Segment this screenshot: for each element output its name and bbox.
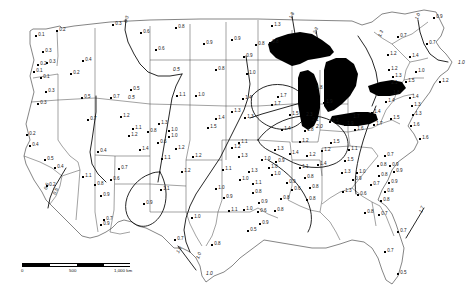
data-point-marker: [223, 197, 226, 200]
data-point-marker: [397, 36, 400, 39]
data-point-marker: [100, 224, 103, 227]
contour-0-5-west: [90, 96, 106, 182]
data-point-marker: [215, 69, 218, 72]
data-point-marker: [364, 212, 367, 215]
data-point-marker: [147, 131, 150, 134]
contour-1-0-plains: [184, 56, 250, 252]
data-point-marker: [228, 210, 231, 213]
data-point-marker: [207, 127, 210, 130]
data-point-marker: [120, 116, 123, 119]
data-point-marker: [390, 118, 393, 121]
data-point-marker: [176, 95, 179, 98]
data-point-marker: [168, 136, 171, 139]
data-point-marker: [97, 151, 100, 154]
data-point-marker: [243, 209, 246, 212]
data-point-marker: [140, 32, 143, 35]
data-point-marker: [352, 179, 355, 182]
data-point-marker: [409, 97, 412, 100]
data-point-marker: [344, 124, 347, 127]
data-point-marker: [231, 111, 234, 114]
scale-seg-3: [77, 264, 104, 266]
data-point-marker: [304, 177, 307, 180]
data-point-marker: [255, 44, 258, 47]
data-point-marker: [317, 164, 320, 167]
data-point-marker: [275, 161, 278, 164]
data-point-marker: [94, 184, 97, 187]
data-point-marker: [390, 93, 393, 96]
data-point-marker: [388, 182, 391, 185]
data-point-marker: [274, 149, 277, 152]
data-point-marker: [44, 159, 47, 162]
data-point-marker: [411, 105, 414, 108]
data-point-marker: [356, 172, 359, 175]
contour-east-lobe: [268, 160, 311, 232]
data-point-marker: [258, 202, 261, 205]
data-point-marker: [56, 30, 59, 33]
data-point-marker: [191, 217, 194, 220]
contour-0-3: [125, 19, 182, 76]
data-point-marker: [370, 184, 373, 187]
data-point-marker: [313, 88, 316, 91]
scale-bar-track: [22, 263, 130, 267]
data-point-marker: [252, 192, 255, 195]
data-point-marker: [354, 129, 357, 132]
data-point-marker: [350, 117, 353, 120]
data-point-marker: [110, 97, 113, 100]
data-point-marker: [192, 156, 195, 159]
data-point-marker: [357, 194, 360, 197]
data-point-marker: [243, 56, 246, 59]
data-point-marker: [281, 129, 284, 132]
data-point-marker: [128, 135, 131, 138]
scale-label-mid: 500: [69, 268, 76, 273]
data-point-marker: [344, 160, 347, 163]
data-point-marker: [397, 273, 400, 276]
data-point-marker: [259, 223, 262, 226]
contour-map-figure: 0.10.20.30.20.30.10.10.40.20.30.30.50.70…: [0, 0, 466, 307]
data-point-marker: [384, 155, 387, 158]
data-point-marker: [215, 188, 218, 191]
data-point-marker: [155, 49, 158, 52]
data-point-marker: [342, 191, 345, 194]
data-point-marker: [112, 24, 115, 27]
data-point-marker: [410, 125, 413, 128]
data-point-marker: [42, 51, 45, 54]
data-point-marker: [132, 128, 135, 131]
data-point-marker: [160, 189, 163, 192]
data-point-marker: [143, 203, 146, 206]
data-point-marker: [330, 142, 333, 145]
data-point-marker: [377, 165, 380, 168]
contour-1-3-ne: [358, 36, 378, 106]
data-point-marker: [280, 198, 283, 201]
data-point-marker: [378, 175, 381, 178]
scale-seg-2: [50, 264, 77, 266]
contour-0-5-sw: [48, 168, 66, 208]
conus-outline: [24, 10, 452, 284]
data-point-marker: [203, 43, 206, 46]
data-point-marker: [271, 104, 274, 107]
data-point-marker: [271, 174, 274, 177]
lake-michigan: [298, 70, 320, 130]
map-geometry: [0, 0, 466, 307]
data-point-marker: [239, 179, 242, 182]
data-point-marker: [373, 124, 376, 127]
state-boundaries: [24, 10, 452, 284]
data-point-marker: [269, 42, 272, 45]
data-point-marker: [303, 115, 306, 118]
data-point-marker: [388, 69, 391, 72]
data-point-marker: [70, 73, 73, 76]
data-point-marker: [215, 118, 218, 121]
data-point-marker: [419, 138, 422, 141]
data-point-marker: [387, 54, 390, 57]
data-point-marker: [252, 183, 255, 186]
data-point-marker: [389, 165, 392, 168]
data-point-marker: [321, 150, 324, 153]
data-point-marker: [289, 114, 292, 117]
data-point-marker: [35, 35, 38, 38]
data-point-marker: [46, 185, 49, 188]
data-point-marker: [323, 102, 326, 105]
data-point-marker: [37, 64, 40, 67]
data-point-marker: [289, 153, 292, 156]
data-point-marker: [29, 145, 32, 148]
data-point-marker: [81, 97, 84, 100]
data-point-marker: [181, 171, 184, 174]
